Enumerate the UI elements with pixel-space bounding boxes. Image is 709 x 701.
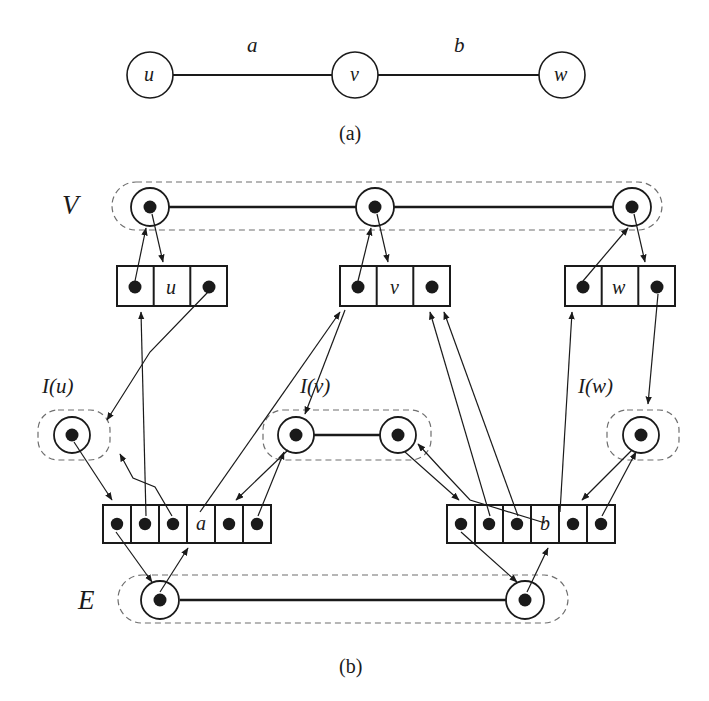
diagram-svg — [0, 0, 709, 701]
set-label-I-w: I(w) — [578, 374, 613, 399]
v-group — [112, 182, 662, 230]
arrow-iv-to-reca — [236, 450, 288, 500]
i-u-group — [38, 410, 110, 460]
arrow-recb-to-recw — [560, 312, 572, 512]
panel-a-caption: (a) — [339, 122, 361, 145]
arrow-recw-to-iw — [648, 294, 658, 404]
arrow-reca-to-recu — [141, 312, 146, 516]
edge-record-label-a: a — [196, 512, 206, 535]
record-u-ptr-left — [129, 281, 142, 294]
record-u-ptr-right — [203, 281, 216, 294]
e-group — [118, 575, 568, 623]
set-label-E: E — [78, 585, 95, 616]
v-node-v — [356, 188, 394, 226]
panel-b-caption: (b) — [339, 655, 362, 678]
panel-a-vertex-label-u: u — [144, 63, 154, 86]
arrow-recb-to-iw — [602, 452, 636, 516]
record-w-ptr-right — [651, 281, 664, 294]
edge-record-label-b: b — [540, 512, 550, 535]
arrow-recu-to-iu — [107, 292, 208, 420]
record-v-ptr-right — [426, 281, 439, 294]
edge-record-a — [103, 505, 271, 543]
set-label-I-v: I(v) — [300, 374, 330, 399]
arrow-iw-to-recb — [582, 450, 632, 500]
set-label-V: V — [62, 190, 79, 221]
edge-record-b — [447, 505, 615, 543]
record-w-ptr-left — [577, 281, 590, 294]
panel-a-vertex-label-w: w — [554, 63, 567, 86]
arrow-reca-to-recv — [200, 312, 340, 512]
i-w-group — [607, 410, 679, 460]
panel-a-edge-label-a: a — [247, 33, 258, 58]
set-label-I-u: I(u) — [42, 374, 73, 399]
figure-canvas: u v w a b (a) V I(u) I(v) I(w) E u v w a… — [0, 0, 709, 701]
record-v-ptr-left — [352, 281, 365, 294]
v-node-u — [131, 188, 169, 226]
arrow-enodea-to-reca — [160, 548, 188, 592]
vertex-record-label-v: v — [390, 276, 399, 299]
v-node-w — [613, 188, 651, 226]
panel-a-edge-label-b: b — [454, 33, 465, 58]
vertex-record-label-u: u — [166, 276, 176, 299]
panel-a-vertex-label-v: v — [350, 63, 359, 86]
vertex-record-label-w: w — [612, 276, 625, 299]
